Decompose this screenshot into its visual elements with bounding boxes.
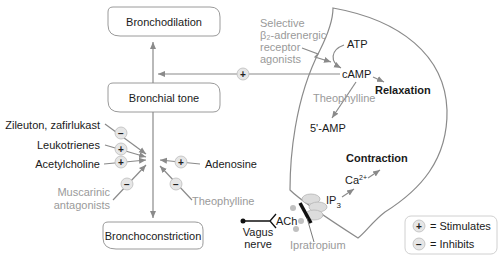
zileuton-inhibits-badge: − (115, 127, 127, 139)
zileuton-label: Zileuton, zafirlukast (5, 119, 100, 131)
agonist-label-line2: β₂-adrenergic (260, 29, 327, 41)
ip3-label: IP3 (326, 194, 341, 210)
agonist-label-line4: agonists (260, 53, 301, 65)
inhibits-symbol: − (416, 239, 422, 250)
theophylline-inhibits-badge: − (170, 178, 182, 190)
svg-text:+: + (240, 69, 246, 80)
bronchial-tone-box: Bronchial tone (108, 83, 220, 112)
agonist-label-line1: Selective (260, 17, 305, 29)
leukotrienes-stimulates-badge: + (115, 143, 127, 155)
theophylline-pde-label: Theophylline (313, 92, 375, 104)
agonist-receptor-arrow (302, 48, 331, 62)
bronchoconstriction-label: Bronchoconstriction (105, 230, 202, 242)
camp-label: cAMP (342, 68, 371, 80)
antagonists-label: antagonists (54, 199, 111, 211)
theophylline-inhibitor-label: Theophylline (192, 195, 254, 207)
amp-label: 5'-AMP (310, 122, 346, 134)
acetylcholine-label: Acetylcholine (35, 158, 100, 170)
calcium-to-contraction-arrow (368, 170, 380, 178)
bronchoconstriction-box: Bronchoconstriction (103, 222, 203, 249)
svg-text:−: − (124, 179, 130, 190)
ach-dot-icon (298, 218, 304, 224)
calcium-label: Ca2+ (345, 174, 367, 186)
ip3-to-calcium-arrow (342, 189, 354, 197)
agonist-label-line3: receptor (260, 41, 301, 53)
bronchodilation-box: Bronchodilation (108, 7, 220, 36)
relaxation-label: Relaxation (375, 84, 431, 96)
svg-text:−: − (173, 179, 179, 190)
muscarinic-inhibits-badge: − (121, 178, 133, 190)
stimulates-label: = Stimulates (430, 220, 491, 232)
svg-text:+: + (178, 157, 184, 168)
atp-label: ATP (347, 38, 368, 50)
adenosine-stimulates-badge: + (175, 156, 187, 168)
ach-label: ACh (276, 215, 297, 227)
legend: + = Stimulates − = Inhibits (405, 216, 497, 254)
bronchodilation-label: Bronchodilation (126, 16, 202, 28)
adenosine-label: Adenosine (205, 158, 257, 170)
muscarinic-label: Muscarinic (57, 186, 110, 198)
bronchial-tone-label: Bronchial tone (129, 92, 199, 104)
vagus-label: Vagus (243, 226, 274, 238)
svg-text:−: − (118, 128, 124, 139)
bronchial-tone-diagram: Bronchodilation Bronchial tone Bronchoco… (0, 0, 502, 260)
nerve-label: nerve (244, 238, 272, 250)
atp-to-camp-arrow (333, 45, 344, 68)
leukotrienes-label: Leukotrienes (37, 139, 100, 151)
stimulates-symbol: + (416, 221, 422, 232)
contraction-label: Contraction (346, 152, 408, 164)
svg-text:+: + (118, 157, 124, 168)
svg-text:+: + (118, 144, 124, 155)
ach-dot-icon (290, 205, 296, 211)
camp-to-relaxation-arrow (373, 77, 384, 82)
camp-stimulates-badge: + (237, 68, 249, 80)
inhibits-label: = Inhibits (430, 238, 475, 250)
ipratropium-label: Ipratropium (290, 239, 346, 251)
acetylcholine-stimulates-badge: + (115, 156, 127, 168)
